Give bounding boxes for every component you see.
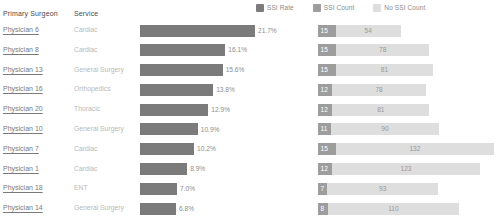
no-ssi-count-segment[interactable]: 54: [336, 25, 401, 37]
ssi-rate-bar[interactable]: [140, 123, 198, 135]
ssi-rate-bar-group: 16.1%: [140, 44, 255, 56]
ssi-count-segment[interactable]: 12: [318, 84, 332, 96]
ssi-rate-value-label: 21.7%: [258, 27, 277, 34]
ssi-rate-bar[interactable]: [140, 84, 213, 96]
column-header-service: Service: [74, 10, 98, 17]
ssi-count-segment[interactable]: 15: [318, 44, 336, 56]
ssi-count-segment[interactable]: 7: [318, 183, 327, 195]
ssi-count-value: 12: [321, 104, 328, 116]
ssi-rate-value-label: 13.8%: [216, 86, 235, 93]
ssi-rate-value-label: 16.1%: [228, 46, 247, 53]
count-stacked-bar-group: 15132: [318, 143, 494, 155]
service-label: Thoracic: [74, 105, 100, 112]
ssi-rate-bar[interactable]: [140, 25, 255, 37]
ssi-rate-bar[interactable]: [140, 203, 176, 215]
chart-row: Physician 16Orthopedics13.8%1278: [0, 81, 498, 101]
ssi-rate-bar-group: 10.9%: [140, 123, 255, 135]
ssi-count-value: 7: [321, 183, 325, 195]
service-label: General Surgery: [74, 125, 124, 132]
legend-swatch-icon: [373, 4, 381, 12]
legend-item[interactable]: SSI Rate: [256, 2, 294, 13]
no-ssi-count-value: 90: [381, 123, 388, 135]
ssi-rate-bar-group: 7.0%: [140, 183, 255, 195]
no-ssi-count-value: 93: [379, 183, 386, 195]
ssi-count-segment[interactable]: 12: [318, 163, 332, 175]
service-label: Orthopedics: [74, 85, 111, 92]
surgeon-link[interactable]: Physician 16: [3, 85, 43, 92]
legend-item[interactable]: No SSI Count: [373, 2, 425, 13]
service-label: General Surgery: [74, 66, 124, 73]
ssi-rate-value-label: 8.9%: [190, 165, 205, 172]
legend-swatch-icon: [256, 4, 264, 12]
no-ssi-count-segment[interactable]: 90: [331, 123, 439, 135]
no-ssi-count-value: 81: [377, 104, 384, 116]
no-ssi-count-segment[interactable]: 78: [332, 84, 425, 96]
no-ssi-count-segment[interactable]: 78: [336, 44, 429, 56]
no-ssi-count-segment[interactable]: 81: [336, 64, 433, 76]
ssi-rate-bar-group: 6.8%: [140, 203, 255, 215]
chart-row: Physician 7Cardiac10.2%15132: [0, 141, 498, 161]
count-stacked-bar-group: 1554: [318, 25, 401, 37]
ssi-count-value: 15: [321, 64, 328, 76]
ssi-rate-bar[interactable]: [140, 44, 225, 56]
no-ssi-count-value: 110: [388, 203, 399, 215]
legend-item[interactable]: SSI Count: [313, 2, 355, 13]
ssi-rate-bar-group: 15.6%: [140, 64, 255, 76]
surgeon-link[interactable]: Physician 18: [3, 184, 43, 191]
count-stacked-bar-group: 8110: [318, 203, 459, 215]
chart-row: Physician 8Cardiac16.1%1578: [0, 42, 498, 62]
count-stacked-bar-group: 1578: [318, 44, 429, 56]
ssi-rate-bar[interactable]: [140, 143, 194, 155]
ssi-count-value: 12: [321, 163, 328, 175]
no-ssi-count-value: 81: [381, 64, 388, 76]
legend-label: No SSI Count: [384, 3, 425, 12]
chart-row: Physician 18ENT7.0%793: [0, 180, 498, 200]
no-ssi-count-segment[interactable]: 110: [328, 203, 460, 215]
surgeon-link[interactable]: Physician 20: [3, 105, 43, 112]
ssi-count-segment[interactable]: 15: [318, 64, 336, 76]
ssi-count-segment[interactable]: 11: [318, 123, 331, 135]
ssi-rate-bar[interactable]: [140, 183, 177, 195]
ssi-count-value: 15: [321, 143, 328, 155]
chart-rows: Physician 6Cardiac21.7%1554Physician 8Ca…: [0, 22, 498, 220]
surgeon-link[interactable]: Physician 10: [3, 125, 43, 132]
legend-swatch-icon: [313, 4, 321, 12]
ssi-count-value: 15: [321, 25, 328, 37]
ssi-rate-value-label: 10.2%: [197, 145, 216, 152]
ssi-count-segment[interactable]: 15: [318, 25, 336, 37]
ssi-rate-value-label: 12.9%: [211, 106, 230, 113]
ssi-count-segment[interactable]: 12: [318, 104, 332, 116]
ssi-rate-value-label: 6.8%: [179, 205, 194, 212]
chart-row: Physician 6Cardiac21.7%1554: [0, 22, 498, 42]
count-stacked-bar-group: 793: [318, 183, 438, 195]
ssi-count-segment[interactable]: 15: [318, 143, 336, 155]
no-ssi-count-value: 78: [375, 84, 382, 96]
ssi-rate-bar[interactable]: [140, 163, 187, 175]
chart-row: Physician 1Cardiac8.9%12123: [0, 161, 498, 181]
count-stacked-bar-group: 1281: [318, 104, 429, 116]
surgeon-link[interactable]: Physician 13: [3, 66, 43, 73]
surgeon-link[interactable]: Physician 14: [3, 204, 43, 211]
ssi-count-value: 8: [321, 203, 325, 215]
surgeon-link[interactable]: Physician 7: [3, 145, 39, 152]
no-ssi-count-segment[interactable]: 132: [336, 143, 494, 155]
chart-row: Physician 13General Surgery15.6%1581: [0, 62, 498, 82]
surgeon-link[interactable]: Physician 6: [3, 26, 39, 33]
no-ssi-count-segment[interactable]: 81: [332, 104, 429, 116]
ssi-rate-value-label: 15.6%: [226, 66, 245, 73]
service-label: Cardiac: [74, 165, 97, 172]
service-label: General Surgery: [74, 204, 124, 211]
ssi-rate-bar-group: 21.7%: [140, 25, 255, 37]
ssi-rate-bar[interactable]: [140, 104, 208, 116]
surgeon-link[interactable]: Physician 1: [3, 165, 39, 172]
ssi-count-segment[interactable]: 8: [318, 203, 328, 215]
legend-label: SSI Count: [324, 3, 355, 12]
surgeon-link[interactable]: Physician 8: [3, 46, 39, 53]
ssi-rate-bar[interactable]: [140, 64, 223, 76]
no-ssi-count-segment[interactable]: 123: [332, 163, 479, 175]
ssi-rate-value-label: 7.0%: [180, 185, 195, 192]
ssi-count-value: 11: [321, 123, 328, 135]
service-label: Cardiac: [74, 26, 97, 33]
ssi-rate-bar-group: 12.9%: [140, 104, 255, 116]
no-ssi-count-segment[interactable]: 93: [327, 183, 438, 195]
